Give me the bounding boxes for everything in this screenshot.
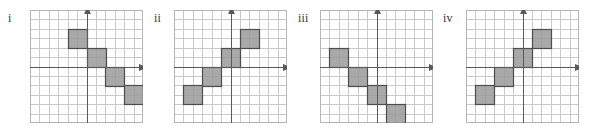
figure-four-grid-panels: iiiiiiiv [0,0,596,129]
shaded-block [330,49,349,68]
shaded-block [69,30,88,49]
shaded-block [476,86,495,105]
shaded-block [387,105,406,124]
shaded-block [203,68,222,87]
plot-area-i [30,10,143,123]
shaded-block [241,30,260,49]
shaded-block [88,49,107,68]
plot-area-iv [466,10,579,123]
panel-label-ii: ii [154,12,161,24]
panel-label-iv: iv [443,12,453,24]
plot-area-ii [174,10,287,123]
panel-label-iii: iii [298,12,309,24]
panel-label-i: i [8,12,12,24]
shaded-block [125,86,144,105]
shaded-block [106,68,125,87]
plot-area-iii [320,10,433,123]
plot-background [30,10,143,123]
shaded-block [184,86,203,105]
shaded-block [495,68,514,87]
shaded-block [533,30,552,49]
shaded-block [349,68,368,87]
